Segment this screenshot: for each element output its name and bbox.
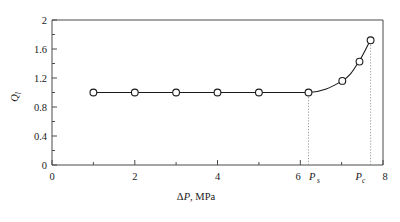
chart-figure: 0 0.4 0.8 1.2 1.6 2 0 2 4 6 8 P s P c ΔP…	[0, 0, 400, 222]
series-line-path	[93, 40, 370, 92]
data-point-marker	[131, 89, 138, 96]
x-tick-label-4: 4	[215, 171, 221, 182]
x-tick-label-8: 8	[382, 171, 387, 182]
line-chart-svg: 0 0.4 0.8 1.2 1.6 2 0 2 4 6 8 P s P c ΔP…	[0, 0, 400, 222]
x-tick-labels: 0 2 4 6 8	[49, 171, 387, 182]
y-tick-label-12: 1.2	[34, 73, 47, 84]
y-tick-label-2: 2	[42, 15, 47, 26]
ps-annotation-label: P s	[308, 171, 320, 185]
ps-label-p: P	[308, 171, 316, 182]
data-series-ql	[90, 37, 374, 96]
y-tick-label-0: 0	[42, 160, 47, 171]
y-tick-label-04: 0.4	[34, 131, 48, 142]
y-tick-labels: 0 0.4 0.8 1.2 1.6 2	[34, 15, 48, 171]
y-tick-label-16: 1.6	[34, 44, 47, 55]
data-point-marker	[305, 89, 312, 96]
data-point-marker	[214, 89, 221, 96]
data-point-marker	[256, 89, 263, 96]
data-point-marker	[90, 89, 97, 96]
y-tick-label-08: 0.8	[34, 102, 47, 113]
x-tick-label-2: 2	[132, 171, 137, 182]
data-point-marker	[367, 37, 374, 44]
data-point-marker	[339, 78, 346, 85]
y-axis-ticks	[52, 20, 57, 165]
y-axis-title: Ql	[9, 92, 23, 102]
data-point-marker	[356, 58, 363, 65]
x-axis-ticks	[52, 160, 383, 165]
x-axis-title: ΔP, MPa	[177, 191, 216, 202]
ps-label-subscript: s	[317, 176, 320, 185]
y-axis-title-text: Ql	[9, 92, 23, 102]
x-axis-title-text: ΔP, MPa	[177, 191, 216, 202]
pc-annotation-label: P c	[355, 171, 366, 185]
x-tick-label-0: 0	[49, 171, 54, 182]
data-point-marker	[173, 89, 180, 96]
x-title-units: , MPa	[190, 191, 215, 202]
x-tick-label-6: 6	[295, 171, 300, 182]
pc-label-subscript: c	[362, 176, 366, 185]
y-title-subscript: l	[14, 92, 23, 94]
